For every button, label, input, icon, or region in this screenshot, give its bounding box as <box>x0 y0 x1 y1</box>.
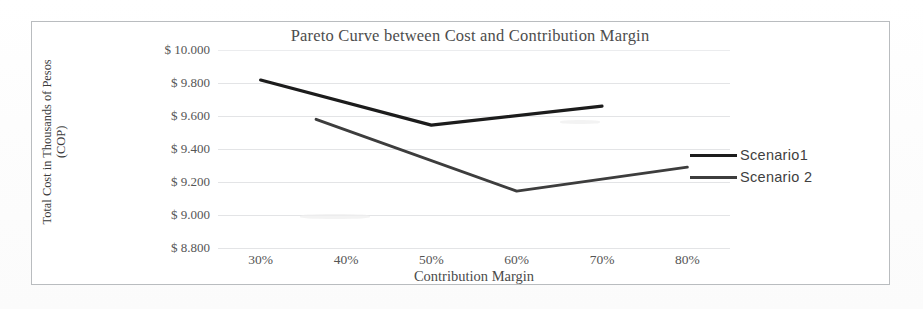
scan-smudge <box>300 214 370 219</box>
series-line-scenario-2 <box>316 119 687 191</box>
chart-figure: Pareto Curve between Cost and Contributi… <box>0 0 923 309</box>
legend-label-scenario2: Scenario 2 <box>740 169 812 185</box>
y-tick-label: $ 9.000 <box>118 207 210 223</box>
x-tick-label: 80% <box>657 252 717 268</box>
y-axis-title-line1: Total Cost in Thousands of Pesos <box>40 59 54 224</box>
y-tick-label: $ 10.000 <box>118 42 210 58</box>
chart-title: Pareto Curve between Cost and Contributi… <box>190 26 750 46</box>
x-axis-title: Contribution Margin <box>218 268 730 285</box>
x-tick-label: 50% <box>401 252 461 268</box>
y-axis-title: Total Cost in Thousands of Pesos (COP) <box>41 27 69 257</box>
gridline <box>218 248 730 249</box>
x-tick-label: 70% <box>572 252 632 268</box>
y-tick-label: $ 9.400 <box>118 141 210 157</box>
y-axis-title-line2: (COP) <box>55 27 69 257</box>
y-tick-label: $ 8.800 <box>118 240 210 256</box>
x-tick-label: 40% <box>316 252 376 268</box>
y-tick-label: $ 9.200 <box>118 174 210 190</box>
legend-line-icon-scenario1 <box>690 154 737 157</box>
series-line-scenario1 <box>261 80 602 125</box>
y-tick-label: $ 9.600 <box>118 108 210 124</box>
legend-line-icon-scenario2 <box>690 176 737 179</box>
series-layer <box>218 50 730 248</box>
x-tick-label: 60% <box>487 252 547 268</box>
y-axis-tick-labels: $ 10.000$ 9.800$ 9.600$ 9.400$ 9.200$ 9.… <box>118 50 210 248</box>
y-tick-label: $ 9.800 <box>118 75 210 91</box>
x-tick-label: 30% <box>231 252 291 268</box>
scan-smudge <box>560 120 600 124</box>
chart-legend: Scenario1 Scenario 2 <box>690 144 860 188</box>
legend-label-scenario1: Scenario1 <box>740 147 808 163</box>
legend-item-scenario2[interactable]: Scenario 2 <box>690 166 860 188</box>
legend-item-scenario1[interactable]: Scenario1 <box>690 144 860 166</box>
